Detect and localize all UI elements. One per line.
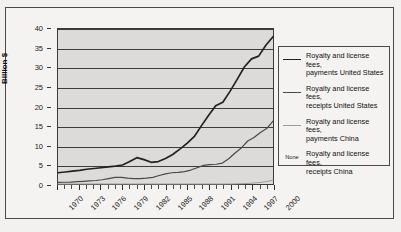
y-tick-mark	[47, 48, 51, 49]
y-tick-mark	[47, 185, 51, 186]
x-tick-label: 1979	[132, 194, 150, 212]
x-tick-mark	[86, 185, 87, 189]
series-layer	[58, 29, 273, 184]
y-tick-mark	[47, 126, 51, 127]
legend-item[interactable]: Royalty and license fees,payments United…	[282, 52, 386, 78]
legend-label-line1: Royalty and license fees,	[306, 150, 386, 167]
y-tick-label: 5	[39, 161, 43, 170]
x-tick-label: 1994	[240, 194, 258, 212]
x-tick-label: 1982	[154, 194, 172, 212]
y-tick-label: 15	[35, 122, 43, 131]
y-tick-label: 25	[35, 82, 43, 91]
x-tick-mark	[71, 185, 72, 189]
legend-label: Royalty and license fees,payments China	[306, 118, 386, 144]
x-axis-ticks	[57, 185, 274, 191]
y-tick-mark	[47, 107, 51, 108]
y-tick-mark	[47, 165, 51, 166]
legend-label-line2: receipts United States	[306, 102, 386, 111]
x-tick-label: 1973	[89, 194, 107, 212]
x-tick-mark	[194, 185, 195, 189]
y-tick-label: 20	[35, 102, 43, 111]
figure-panel: Billion $ 4035302520151050 1970197319761…	[5, 7, 394, 219]
legend-label-line1: Royalty and license fees,	[306, 85, 386, 102]
y-tick-label: 30	[35, 63, 43, 72]
legend-swatch	[282, 88, 302, 97]
legend-label: Royalty and license fees,payments United…	[306, 52, 386, 78]
x-tick-mark	[158, 185, 159, 189]
series-line	[58, 121, 273, 182]
y-tick-mark	[47, 146, 51, 147]
x-tick-mark	[231, 185, 232, 190]
y-tick-label: 10	[35, 141, 43, 150]
legend-label: Royalty and license fees,receipts China	[306, 150, 386, 176]
x-tick-label: 1970	[67, 194, 85, 212]
x-tick-mark	[100, 185, 101, 190]
x-tick-mark	[129, 185, 130, 189]
x-tick-label: 1991	[219, 194, 237, 212]
x-tick-label: 1988	[197, 194, 215, 212]
y-tick-mark	[47, 87, 51, 88]
x-tick-mark	[122, 185, 123, 190]
legend-item[interactable]: Royalty and license fees,receipts United…	[282, 85, 386, 111]
legend-label: Royalty and license fees,receipts United…	[306, 85, 386, 111]
legend-label-line2: payments United States	[306, 69, 386, 78]
series-line	[58, 37, 273, 173]
legend-label-line2: receipts China	[306, 168, 386, 177]
legend-swatch	[282, 55, 302, 64]
x-tick-mark	[260, 185, 261, 189]
x-tick-mark	[238, 185, 239, 189]
x-tick-mark	[137, 185, 138, 189]
x-axis-labels: 1970197319761979198219851988199119941997…	[57, 192, 274, 218]
x-tick-mark	[64, 185, 65, 189]
y-tick-mark	[47, 28, 51, 29]
x-tick-mark	[166, 185, 167, 190]
legend-label-line2: payments China	[306, 135, 386, 144]
legend-swatch: None	[282, 153, 302, 162]
x-tick-mark	[274, 185, 275, 190]
x-tick-label: 1976	[110, 194, 128, 212]
x-tick-mark	[180, 185, 181, 189]
legend-line-icon	[283, 125, 301, 126]
x-tick-label: 1985	[175, 194, 193, 212]
x-tick-label: 2000	[284, 194, 302, 212]
y-axis-ticks: 4035302520151050	[6, 28, 51, 185]
legend-item[interactable]: Royalty and license fees,payments China	[282, 118, 386, 144]
x-tick-mark	[57, 185, 58, 190]
x-tick-label: 1997	[262, 194, 280, 212]
x-tick-mark	[79, 185, 80, 190]
plot-wrapper	[57, 28, 274, 185]
legend-item[interactable]: NoneRoyalty and license fees,receipts Ch…	[282, 150, 386, 176]
legend-line-icon	[283, 59, 301, 60]
y-tick-label: 35	[35, 43, 43, 52]
x-tick-mark	[115, 185, 116, 189]
legend-label-line1: Royalty and license fees,	[306, 118, 386, 135]
legend-none-text: None	[282, 153, 302, 162]
x-tick-mark	[151, 185, 152, 189]
x-tick-mark	[144, 185, 145, 190]
x-tick-mark	[93, 185, 94, 189]
legend-swatch	[282, 121, 302, 130]
y-tick-label: 40	[35, 24, 43, 33]
x-tick-mark	[173, 185, 174, 189]
x-tick-mark	[245, 185, 246, 189]
x-tick-mark	[223, 185, 224, 189]
y-tick-label: 0	[39, 181, 43, 190]
x-tick-mark	[187, 185, 188, 190]
plot-area	[57, 28, 274, 185]
x-tick-mark	[216, 185, 217, 189]
x-tick-mark	[209, 185, 210, 190]
x-tick-mark	[202, 185, 203, 189]
y-tick-mark	[47, 67, 51, 68]
chart-legend: Royalty and license fees,payments United…	[278, 46, 390, 166]
x-tick-mark	[267, 185, 268, 189]
legend-label-line1: Royalty and license fees,	[306, 52, 386, 69]
x-tick-mark	[252, 185, 253, 190]
x-tick-mark	[108, 185, 109, 189]
legend-line-icon	[283, 92, 301, 93]
